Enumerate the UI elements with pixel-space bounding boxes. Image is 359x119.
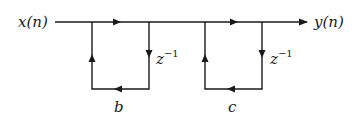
output-label: y(n) [313,13,344,31]
arrow-down-icon [146,50,153,58]
arrow-up-icon [202,54,209,62]
arrow-icon [230,19,238,26]
arrow-icon [113,19,121,26]
delay-label-1: z−1 [155,48,179,68]
delay-label-2: z−1 [269,48,293,68]
gain-label-c: c [228,98,237,116]
arrow-left-icon [114,86,122,93]
gain-label-b: b [114,98,124,116]
arrow-down-icon [259,50,266,58]
output-arrow-icon [299,19,308,26]
feedback-loop-1: z−1 b [89,22,179,116]
signal-flow-diagram: x(n) y(n) z−1 b z−1 c [0,0,359,119]
feedback-loop-2: z−1 c [202,22,293,116]
arrow-up-icon [89,54,96,62]
arrow-left-icon [227,86,235,93]
input-label: x(n) [18,13,48,31]
